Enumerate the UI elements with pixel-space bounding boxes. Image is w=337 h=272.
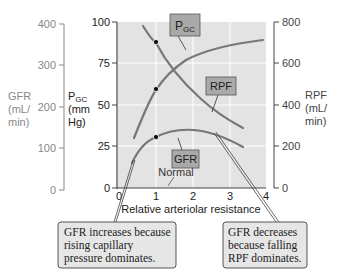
pgc-normal-dot — [153, 86, 158, 91]
rpf-tick-400: 400 — [282, 99, 300, 111]
x-tick-1: 1 — [153, 190, 159, 202]
svg-text:GFR: GFR — [174, 153, 197, 165]
pgc-tick-50: 50 — [98, 99, 110, 111]
svg-text:rising capillary: rising capillary — [64, 239, 134, 252]
x-axis-label: Relative arteriolar resistance — [121, 203, 260, 215]
rpf-tick-200: 200 — [282, 140, 300, 152]
rpf-normal-dot — [153, 39, 158, 44]
svg-text:PGC: PGC — [68, 90, 88, 104]
gfr-tick-0: 0 — [50, 184, 56, 196]
gfr-tick-300: 300 — [38, 59, 56, 71]
pgc-tick-100: 100 — [92, 16, 110, 28]
x-tick-0: 0 — [116, 190, 122, 202]
x-axis: 0 1 2 3 4 Relative arteriolar resistance — [116, 188, 269, 215]
pgc-axis: 100 75 50 25 0 — [92, 16, 117, 194]
svg-text:min): min) — [305, 115, 326, 127]
rpf-axis-label: RPF (mL/ min) — [305, 89, 328, 127]
x-tick-3: 3 — [227, 190, 233, 202]
pgc-axis-label: PGC (mm Hg) — [68, 90, 90, 128]
rpf-tick-0: 0 — [282, 182, 288, 194]
svg-text:RPF dominates.: RPF dominates. — [228, 252, 302, 264]
renal-hemodynamics-chart: 400 300 200 100 0 GFR (mL/ min) PGC (mm … — [0, 0, 337, 272]
right-note: GFR decreases because falling RPF domina… — [223, 222, 307, 268]
svg-text:min): min) — [8, 116, 29, 128]
pgc-tick-75: 75 — [98, 57, 110, 69]
svg-text:GFR: GFR — [8, 90, 31, 102]
svg-text:GFR decreases: GFR decreases — [228, 226, 298, 238]
gfr-tick-200: 200 — [38, 101, 56, 113]
svg-text:RPF: RPF — [305, 89, 327, 101]
svg-text:RPF: RPF — [210, 80, 232, 92]
gfr-tick-100: 100 — [38, 142, 56, 154]
svg-text:(mL/: (mL/ — [305, 102, 328, 114]
svg-text:pressure dominates.: pressure dominates. — [64, 252, 155, 265]
svg-text:Hg): Hg) — [68, 116, 86, 128]
x-tick-2: 2 — [190, 190, 196, 202]
rpf-tick-800: 800 — [282, 16, 300, 28]
svg-text:GFR increases because: GFR increases because — [64, 226, 171, 238]
gfr-axis: 400 300 200 100 0 GFR (mL/ min) — [8, 18, 64, 196]
rpf-axis: 800 600 400 200 0 RPF (mL/ min) — [274, 16, 328, 194]
left-note: GFR increases because rising capillary p… — [58, 222, 176, 268]
pgc-tick-0: 0 — [104, 182, 110, 194]
pgc-tick-25: 25 — [98, 140, 110, 152]
svg-text:because falling: because falling — [228, 239, 298, 252]
gfr-axis-label: GFR (mL/ min) — [8, 90, 31, 128]
svg-text:(mL/: (mL/ — [8, 103, 31, 115]
rpf-tick-600: 600 — [282, 57, 300, 69]
gfr-normal-dot — [153, 134, 158, 139]
gfr-tick-400: 400 — [38, 18, 56, 30]
svg-text:(mm: (mm — [68, 103, 90, 115]
